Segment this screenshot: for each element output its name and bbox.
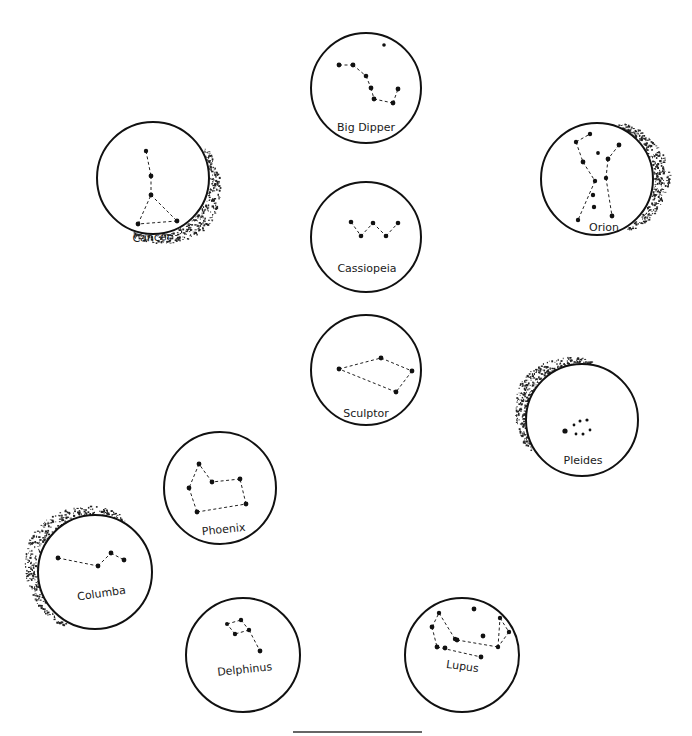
star-dot [233, 632, 237, 636]
star-dot [384, 234, 389, 239]
star-dot [443, 646, 448, 651]
constellation-columba: Columba [25, 506, 152, 629]
star-dot [371, 221, 376, 226]
star-dot [144, 149, 148, 153]
constellation-label: Cassiopeia [337, 262, 396, 275]
constellation-label: Sculptor [343, 407, 389, 420]
star-dot [410, 369, 415, 374]
star-dot [573, 424, 576, 427]
star-dot [589, 429, 592, 432]
star-dot [96, 564, 101, 569]
star-dot [337, 367, 342, 372]
star-dot [435, 645, 440, 650]
star-dot [588, 132, 592, 136]
star-dot [195, 510, 200, 515]
constellation-label: Pleides [564, 454, 603, 467]
star-dot [617, 143, 622, 148]
star-dot [175, 219, 180, 224]
star-dot [258, 649, 263, 654]
star-dot [610, 214, 615, 219]
star-dot [606, 157, 611, 162]
star-dot [372, 97, 377, 102]
star-dot [579, 420, 582, 423]
circle-frame [405, 598, 519, 712]
star-dot [349, 220, 354, 225]
star-dot [210, 480, 215, 485]
star-dot [109, 551, 114, 556]
star-dot [591, 193, 595, 197]
star-dot [592, 205, 596, 209]
star-dot [394, 390, 399, 395]
constellation-label: Big Dipper [337, 121, 395, 134]
star-dot [596, 151, 600, 155]
star-dot [575, 433, 578, 436]
constellation-delphinus: Delphinus [186, 598, 300, 712]
constellation-cassiopeia: Cassiopeia [311, 182, 421, 292]
star-dot [453, 637, 457, 641]
star-dot [379, 356, 384, 361]
star-dot [122, 558, 127, 563]
star-dot [239, 618, 243, 622]
star-dot [382, 43, 386, 47]
star-dot [507, 630, 511, 634]
star-dot [496, 645, 500, 649]
star-dot [337, 63, 342, 68]
circle-frame [97, 122, 209, 234]
star-dot [576, 218, 580, 222]
star-dot [562, 428, 567, 433]
star-dot [364, 74, 369, 79]
star-dot [136, 222, 141, 227]
constellation-sculptor: Sculptor [311, 315, 421, 425]
star-dot [225, 622, 229, 626]
star-dot [187, 486, 192, 491]
star-dot [149, 174, 154, 179]
star-dot [585, 418, 588, 421]
star-dot [56, 556, 61, 561]
constellation-big-dipper: Big Dipper [311, 33, 421, 143]
star-dot [369, 86, 374, 91]
star-dot [351, 63, 356, 68]
star-dot [582, 433, 585, 436]
star-dot [430, 625, 435, 630]
constellation-label: Orion [589, 221, 619, 234]
star-dot [481, 634, 486, 639]
star-dot [604, 176, 608, 180]
circle-frame [38, 515, 152, 629]
star-dot [437, 611, 441, 615]
star-dot [391, 101, 396, 106]
star-dot [359, 234, 364, 239]
star-dot [574, 140, 578, 144]
circle-frame [186, 598, 300, 712]
constellation-phoenix: Phoenix [164, 432, 276, 544]
circle-frame [311, 182, 421, 292]
constellation-cancer: Cancer [97, 122, 221, 245]
star-dot [396, 221, 401, 226]
star-dot [396, 87, 401, 92]
constellation-orion: Orion [541, 123, 672, 235]
circle-frame [541, 123, 653, 235]
constellation-lupus: Lupus [405, 598, 519, 712]
star-dot [238, 477, 243, 482]
star-dot [247, 628, 251, 632]
star-dot [479, 655, 484, 660]
constellation-label: Cancer [132, 230, 172, 245]
star-dot [472, 607, 477, 612]
star-dot [593, 179, 597, 183]
star-dot [498, 616, 502, 620]
constellation-group: Big DipperCancerOrionCassiopeiaSculptorP… [25, 33, 672, 712]
star-dot [149, 193, 154, 198]
constellation-pleides: Pleides [515, 357, 638, 476]
star-dot [581, 160, 586, 165]
star-dot [244, 502, 249, 507]
star-dot [197, 462, 202, 467]
constellation-figure: Big DipperCancerOrionCassiopeiaSculptorP… [0, 0, 692, 736]
